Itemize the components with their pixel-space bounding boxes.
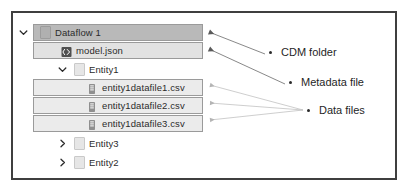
annotation-label: Data files	[319, 105, 365, 116]
tree-row-label: Entity2	[89, 158, 119, 168]
csv-file-icon	[87, 117, 98, 130]
tree-row-entity1[interactable]: Entity1	[56, 61, 119, 78]
tree-row-label: Dataflow 1	[55, 28, 101, 38]
annotation-label: CDM folder	[281, 47, 337, 58]
tree-row-label: Entity3	[89, 139, 119, 149]
chevron-right-icon-entity3[interactable]	[56, 137, 69, 150]
tree-row-entity3[interactable]: Entity3	[56, 135, 119, 152]
folder-icon	[74, 137, 85, 150]
tree-row-label: entity1datafile1.csv	[102, 83, 185, 93]
folder-icon	[74, 156, 85, 169]
leader-line-data-files	[210, 85, 303, 120]
csv-file-icon	[87, 81, 98, 94]
bullet-icon	[289, 81, 292, 84]
tree-row-entity1datafile1[interactable]: entity1datafile1.csv	[33, 79, 203, 96]
annotation-cdm-folder: CDM folder	[269, 47, 337, 58]
annotation-metadata-file: Metadata file	[289, 77, 364, 88]
tree-row-model-json[interactable]: model.json	[33, 42, 203, 59]
csv-file-icon	[87, 99, 98, 112]
tree-row-label: entity1datafile2.csv	[102, 101, 185, 111]
chevron-right-icon-entity2[interactable]	[56, 156, 69, 169]
annotation-label: Metadata file	[301, 77, 364, 88]
bullet-icon	[269, 51, 272, 54]
chevron-down-icon-dataflow-1[interactable]	[17, 26, 30, 39]
diagram-frame: Dataflow 1 model.json	[11, 11, 397, 180]
annotation-data-files: Data files	[307, 105, 365, 116]
tree-row-entity1datafile3[interactable]: entity1datafile3.csv	[33, 115, 203, 132]
tree-row-label: model.json	[76, 46, 123, 56]
folder-icon	[40, 26, 51, 39]
json-file-icon	[61, 44, 72, 57]
tree-row-entity1datafile2[interactable]: entity1datafile2.csv	[33, 97, 203, 114]
folder-icon	[74, 63, 85, 76]
chevron-down-icon-entity1[interactable]	[56, 63, 69, 76]
tree-row-label: entity1datafile3.csv	[102, 119, 185, 129]
folder-tree: Dataflow 1 model.json	[13, 13, 223, 178]
tree-row-entity2[interactable]: Entity2	[56, 154, 119, 171]
tree-row-label: Entity1	[89, 65, 119, 75]
tree-row-dataflow-1[interactable]: Dataflow 1	[33, 24, 203, 41]
bullet-icon	[307, 109, 310, 112]
